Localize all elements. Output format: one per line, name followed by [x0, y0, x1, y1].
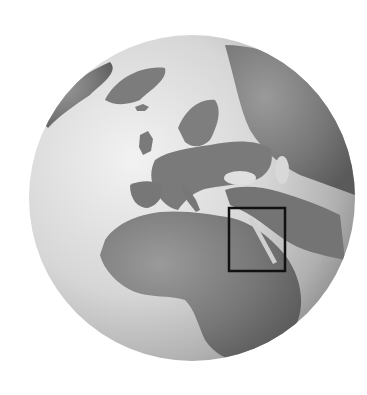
caspian-sea — [275, 156, 289, 184]
globe-svg — [0, 0, 367, 395]
black-sea — [224, 171, 256, 185]
map-figure — [0, 0, 367, 395]
